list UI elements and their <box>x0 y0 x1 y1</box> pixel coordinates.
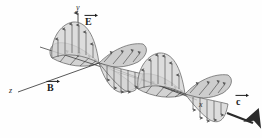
propagation-vector-letter: c <box>236 96 240 107</box>
electric-field-vector-label: E <box>85 17 92 27</box>
magnetic-field-vector-letter: B <box>47 82 54 93</box>
electric-field-vector-letter: E <box>85 16 92 27</box>
z-axis <box>18 63 99 92</box>
axis-label-z: z <box>9 87 12 95</box>
axis-label-x: x <box>199 101 203 109</box>
wave-diagram-canvas <box>0 0 262 138</box>
electric-field-lobe <box>185 94 228 122</box>
magnetic-field-lobe <box>99 44 146 67</box>
electric-field-lobe <box>99 63 143 92</box>
electromagnetic-wave-figure: y x z E B c <box>0 0 262 138</box>
magnetic-field-vector-label: B <box>47 83 54 93</box>
propagation-direction-arrow <box>227 113 253 123</box>
propagation-vector-label: c <box>236 97 240 107</box>
axis-label-y: y <box>76 4 80 12</box>
magnetic-field-lobe <box>185 75 231 98</box>
